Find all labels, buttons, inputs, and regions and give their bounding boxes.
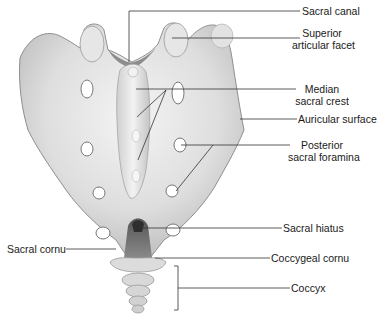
label-sacral-hiatus: Sacral hiatus <box>283 222 344 234</box>
crest-tubercle-3 <box>132 170 140 182</box>
label-median-sacral-crest: Median sacral crest <box>294 83 350 107</box>
label-text: Sacral hiatus <box>283 222 344 234</box>
crest-tubercle-1 <box>128 67 138 77</box>
left-superior-articular-process <box>80 26 104 62</box>
label-coccyx: Coccyx <box>291 282 325 294</box>
label-text-line-2: sacral foramina <box>288 151 356 163</box>
label-text: Sacral canal <box>302 5 360 17</box>
coccyx-bone <box>110 258 166 313</box>
label-coccygeal-cornu: Coccygeal cornu <box>271 252 349 264</box>
hiatus-opening <box>132 220 144 232</box>
label-sacral-canal: Sacral canal <box>302 5 360 17</box>
label-posterior-sacral-foramina: Posterior sacral foramina <box>288 139 356 163</box>
label-text-line-2: articular facet <box>292 39 352 51</box>
label-auricular-surface: Auricular surface <box>298 113 377 125</box>
label-text: Coccygeal cornu <box>271 252 349 264</box>
label-text: Auricular surface <box>298 113 377 125</box>
label-text: Sacral cornu <box>7 243 66 255</box>
label-text-line-1: Superior <box>292 27 352 39</box>
ala-right-bump <box>211 24 233 48</box>
label-text-line-1: Median <box>294 83 350 95</box>
label-sacral-cornu: Sacral cornu <box>7 243 66 255</box>
label-text: Coccyx <box>291 282 325 294</box>
label-text-line-2: sacral crest <box>294 95 350 107</box>
crest-tubercle-2 <box>132 130 140 142</box>
label-text-line-1: Posterior <box>288 139 356 151</box>
label-superior-articular-facet: Superior articular facet <box>292 27 352 51</box>
right-superior-articular-process <box>164 23 188 57</box>
